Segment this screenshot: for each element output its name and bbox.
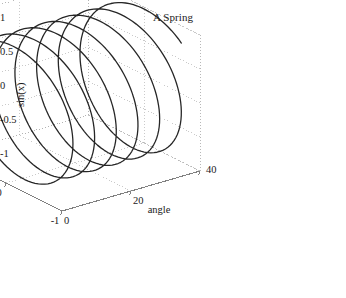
x-axis-title: angle [148,205,171,216]
z-tick-label-4: -1 [0,149,9,160]
spring-curve [0,3,181,185]
z-tick-label-1: 0.5 [0,47,13,58]
plot-3d-axes [0,0,346,298]
y-tick-label-1: 0 [0,188,6,199]
z-tick-label-3: -0.5 [0,115,17,126]
z-tick-label-0: 1 [0,13,5,24]
z-axis-title: sin(x) [16,83,27,108]
y-tick-label-2: -1 [48,216,62,227]
x-tick-label-2: 40 [206,165,224,176]
x-tick-label-0: 0 [64,216,82,227]
figure-canvas: A Spring 10.50-0.5-110-102040sin(x)cos(x… [0,0,346,298]
figure-title: A Spring [0,11,346,23]
z-tick-label-2: 0 [0,81,5,92]
